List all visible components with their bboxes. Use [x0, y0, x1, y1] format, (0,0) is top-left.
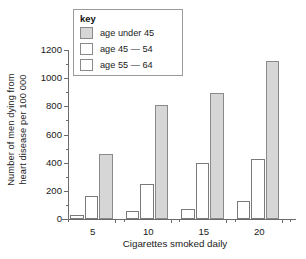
y-tick-major: [64, 135, 68, 136]
y-tick-minor: [66, 149, 69, 150]
y-tick-label: 200: [32, 186, 62, 196]
y-tick-label: 0: [32, 214, 62, 224]
bar: [99, 154, 113, 219]
y-tick-minor: [66, 205, 69, 206]
y-tick-major: [64, 191, 68, 192]
legend-item: age under 45: [80, 25, 178, 41]
x-tick: [115, 219, 116, 223]
bar: [155, 105, 169, 219]
y-tick-minor: [66, 177, 69, 178]
y-axis-title-line-2: heart disease per 100 000: [18, 46, 30, 214]
legend-swatch: [80, 59, 93, 71]
bar: [70, 215, 84, 219]
y-axis-title-line-1: Number of men dying from: [6, 46, 18, 214]
legend-label: age 55 — 64: [100, 60, 153, 71]
y-tick-major: [64, 106, 68, 107]
x-tick-minor: [124, 219, 125, 222]
x-tick-label: 5: [80, 226, 106, 237]
bar: [237, 201, 251, 219]
legend-title: key: [80, 13, 178, 24]
x-tick: [226, 219, 227, 223]
y-tick-label: 1000: [32, 73, 62, 83]
y-tick-label: 1200: [32, 45, 62, 55]
legend-swatch: [80, 43, 93, 55]
legend-label: age under 45: [100, 28, 154, 39]
y-tick-major: [64, 50, 68, 51]
bar: [266, 61, 280, 219]
legend-label: age 45 — 54: [100, 44, 153, 55]
y-axis-line: [68, 50, 69, 220]
y-tick-major: [64, 163, 68, 164]
x-tick: [282, 219, 283, 223]
x-tick-label: 15: [191, 226, 217, 237]
y-axis-title: Number of men dying from heart disease p…: [0, 40, 30, 225]
bar: [196, 163, 210, 219]
bar: [251, 159, 265, 219]
x-tick-minor: [235, 219, 236, 222]
x-tick-minor: [290, 219, 291, 222]
y-tick-minor: [66, 64, 69, 65]
y-tick-minor: [66, 92, 69, 93]
y-tick-label: 600: [32, 130, 62, 140]
y-tick-label: 400: [32, 158, 62, 168]
bar: [181, 209, 195, 219]
bar: [85, 196, 99, 219]
bar: [210, 93, 224, 219]
x-tick-label: 10: [135, 226, 161, 237]
x-tick: [171, 219, 172, 223]
legend-item: age 55 — 64: [80, 57, 178, 73]
x-tick-minor: [68, 219, 69, 222]
y-tick-major: [64, 78, 68, 79]
bar-chart: Number of men dying from heart disease p…: [0, 0, 306, 259]
bar: [140, 184, 154, 219]
x-axis-title: Cigarettes smoked daily: [55, 238, 295, 249]
y-tick-label: 800: [32, 101, 62, 111]
legend-swatch: [80, 27, 93, 39]
bar: [126, 211, 140, 219]
x-tick-label: 20: [246, 226, 272, 237]
legend: key age under 45age 45 — 54age 55 — 64: [73, 9, 183, 76]
y-tick-minor: [66, 120, 69, 121]
legend-item: age 45 — 54: [80, 41, 178, 57]
x-tick-minor: [179, 219, 180, 222]
